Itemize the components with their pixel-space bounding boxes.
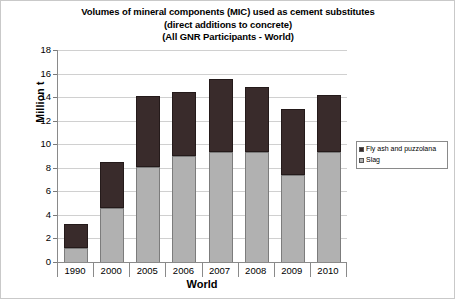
chart-figure: Volumes of mineral components (MIC) used… [0, 0, 456, 300]
x-tick-label: 2007 [202, 265, 238, 276]
x-tick-separator [129, 263, 130, 277]
bar-segment-fly-ash[interactable] [64, 224, 88, 248]
bar-segment-slag[interactable] [317, 152, 341, 262]
chart-title: Volumes of mineral components (MIC) used… [0, 6, 456, 44]
bar-segment-slag[interactable] [172, 156, 196, 262]
x-tick-label: 2008 [238, 265, 274, 276]
plot-area [57, 50, 347, 263]
x-tick-label: 2010 [310, 265, 346, 276]
bar-group[interactable] [209, 50, 233, 262]
chart-title-line-1: Volumes of mineral components (MIC) used… [0, 6, 456, 19]
x-tick-separator [310, 263, 311, 277]
legend-swatch-icon [359, 147, 364, 152]
x-tick-separator [274, 263, 275, 277]
legend-swatch-icon [359, 158, 364, 163]
bar-series-container [58, 50, 347, 262]
x-tick-separator [202, 263, 203, 277]
bar-group[interactable] [245, 50, 269, 262]
x-tick-label: 2009 [274, 265, 310, 276]
x-axis-title: World [57, 278, 347, 290]
legend-label: Slag [366, 156, 380, 164]
x-tick-separator [93, 263, 94, 277]
y-tick-label: 6 [15, 186, 51, 196]
chart-legend: Fly ash and puzzolanaSlag [356, 141, 448, 169]
bar-group[interactable] [317, 50, 341, 262]
bar-segment-slag[interactable] [136, 167, 160, 262]
bar-segment-slag[interactable] [209, 152, 233, 262]
bar-segment-fly-ash[interactable] [100, 162, 124, 208]
x-tick-separator [238, 263, 239, 277]
legend-item[interactable]: Slag [359, 155, 444, 165]
bar-segment-slag[interactable] [245, 152, 269, 262]
legend-item[interactable]: Fly ash and puzzolana [359, 144, 444, 154]
x-tick-label: 2006 [165, 265, 201, 276]
bar-group[interactable] [172, 50, 196, 262]
bar-group[interactable] [136, 50, 160, 262]
bar-group[interactable] [100, 50, 124, 262]
x-tick-label: 1990 [57, 265, 93, 276]
bar-segment-fly-ash[interactable] [172, 92, 196, 156]
chart-title-line-2: (direct additions to concrete) [0, 19, 456, 32]
legend-label: Fly ash and puzzolana [366, 145, 436, 153]
x-axis-ticks: 19902000200520062007200820092010 [57, 263, 347, 279]
bar-segment-fly-ash[interactable] [209, 79, 233, 152]
bar-segment-fly-ash[interactable] [317, 95, 341, 153]
y-tick-label: 8 [15, 163, 51, 173]
y-tick-label: 0 [15, 257, 51, 267]
bar-group[interactable] [64, 50, 88, 262]
bar-group[interactable] [281, 50, 305, 262]
x-tick-separator [165, 263, 166, 277]
bar-segment-slag[interactable] [100, 208, 124, 262]
bar-segment-fly-ash[interactable] [136, 96, 160, 167]
chart-title-line-3: (All GNR Participants - World) [0, 31, 456, 44]
bar-segment-slag[interactable] [64, 248, 88, 262]
x-tick-separator [346, 263, 347, 277]
x-tick-label: 2005 [129, 265, 165, 276]
x-tick-separator [57, 263, 58, 277]
x-tick-label: 2000 [93, 265, 129, 276]
y-tick-label: 2 [15, 233, 51, 243]
y-tick-label: 4 [15, 210, 51, 220]
bar-segment-fly-ash[interactable] [281, 109, 305, 175]
bar-segment-fly-ash[interactable] [245, 87, 269, 153]
y-axis-title: Million t [34, 42, 46, 162]
bar-segment-slag[interactable] [281, 175, 305, 262]
